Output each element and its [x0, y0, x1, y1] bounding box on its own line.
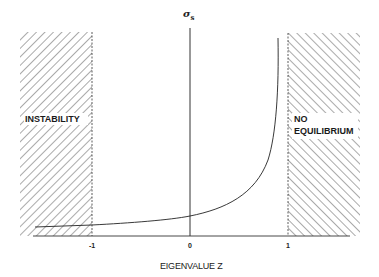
no-equilibrium-label-line2: EQUILIBRIUM: [294, 126, 354, 137]
instability-label: INSTABILITY: [25, 114, 80, 125]
tick-label-zero: 0: [188, 242, 192, 249]
tick-label-one: 1: [286, 242, 290, 249]
instability-region: [20, 32, 92, 236]
no-equilibrium-label-line1: NO: [294, 114, 308, 125]
tick-label-minus-one: -1: [89, 242, 95, 249]
y-axis-label: σs: [183, 8, 194, 22]
x-axis-label: EIGENVALUE Z: [160, 261, 222, 272]
diagram-canvas: [0, 0, 379, 277]
